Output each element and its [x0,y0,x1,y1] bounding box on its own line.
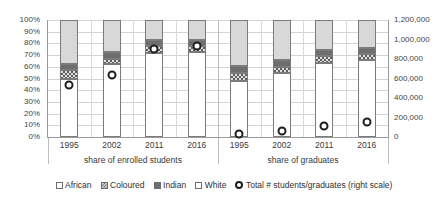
total-count-marker[interactable] [107,71,116,80]
bar-segment-african[interactable] [188,52,206,137]
bar-segment-white[interactable] [230,20,248,66]
right-axis-tick-label: 800,000 [394,55,423,63]
legend-label: Indian [163,180,186,190]
legend-item[interactable]: Coloured [101,180,145,190]
left-axis-tick-label: 30% [24,98,40,106]
bar-segment-coloured[interactable] [230,73,248,81]
bar-segment-white[interactable] [273,20,291,60]
total-count-marker[interactable] [192,42,201,51]
category-separator [261,20,262,137]
total-count-marker[interactable] [150,44,159,53]
legend-label: Total # students/graduates (right scale) [246,180,392,190]
panel-tick [388,138,389,164]
left-y-axis: 0%10%20%30%40%50%60%70%80%90%100% [0,20,44,137]
coloured-swatch [101,182,108,189]
x-axis-tick-label: 2002 [262,140,302,150]
stacked-bar[interactable] [273,20,291,137]
white-swatch [195,182,202,189]
left-axis-tick-label: 10% [24,121,40,129]
legend-item[interactable]: Total # students/graduates (right scale) [235,180,392,190]
right-axis-tick-label: 400,000 [394,94,423,102]
stacked-bar[interactable] [188,20,206,137]
legend-item[interactable]: African [56,180,92,190]
plot-area [48,20,388,137]
x-axis-tick-label: 2016 [177,140,217,150]
total-count-marker[interactable] [362,117,371,126]
category-separator [303,20,304,137]
bar-segment-indian[interactable] [103,52,121,59]
right-axis-tick-label: 0 [394,133,398,141]
category-separator [133,20,134,137]
bar-segment-indian[interactable] [60,64,78,70]
bar-segment-white[interactable] [60,20,78,64]
indian-swatch [154,182,161,189]
left-axis-tick-label: 80% [24,39,40,47]
bar-segment-coloured[interactable] [273,67,291,73]
category-separator [346,20,347,137]
total-count-marker[interactable] [320,121,329,130]
right-axis-tick-label: 600,000 [394,75,423,83]
legend-label: White [205,180,227,190]
panel-tick [48,138,49,164]
left-axis-tick-label: 100% [20,16,40,24]
panel-tick [218,138,219,164]
stacked-bar[interactable] [315,20,333,137]
x-axis-tick-label: 2011 [134,140,174,150]
left-axis-tick-label: 90% [24,28,40,36]
category-separator [91,20,92,137]
bar-segment-indian[interactable] [358,48,376,54]
left-axis-tick-label: 20% [24,110,40,118]
bar-segment-coloured[interactable] [60,70,78,78]
x-axis-tick-label: 1995 [219,140,259,150]
panel-label: share of enrolled students [48,155,218,165]
bar-segment-african[interactable] [145,53,163,137]
right-y-axis: 0200,000400,000600,000800,0001,000,0001,… [392,20,448,137]
circle-marker-swatch [235,181,243,189]
x-axis-tick-label: 2016 [347,140,387,150]
total-count-marker[interactable] [277,126,286,135]
right-axis-tick-label: 200,000 [394,114,423,122]
chart-container: 0%10%20%30%40%50%60%70%80%90%100% 0200,0… [0,0,448,201]
bar-segment-white[interactable] [358,20,376,48]
bar-segment-white[interactable] [103,20,121,52]
x-axis-tick-label: 2011 [304,140,344,150]
x-axis-tick-label: 1995 [49,140,89,150]
chart-legend: AfricanColouredIndianWhiteTotal # studen… [0,176,448,194]
left-axis-tick-label: 40% [24,86,40,94]
panel-divider [218,20,219,137]
stacked-bar[interactable] [230,20,248,137]
bar-segment-coloured[interactable] [358,54,376,60]
bar-segment-indian[interactable] [315,50,333,56]
bar-segment-white[interactable] [145,20,163,40]
legend-item[interactable]: White [195,180,226,190]
legend-item[interactable]: Indian [154,180,187,190]
legend-label: Coloured [110,180,145,190]
panel-label: share of graduates [218,155,388,165]
x-axis-tick-label: 2002 [92,140,132,150]
left-axis-tick-label: 0% [28,133,40,141]
right-axis-tick-label: 1,200,000 [394,16,430,24]
left-axis-tick-label: 60% [24,63,40,71]
stacked-bar[interactable] [145,20,163,137]
african-swatch [56,182,63,189]
left-axis-tick-label: 70% [24,51,40,59]
bar-segment-coloured[interactable] [103,59,121,65]
total-count-marker[interactable] [235,129,244,138]
bar-segment-white[interactable] [315,20,333,50]
total-count-marker[interactable] [65,81,74,90]
legend-label: African [65,180,91,190]
bar-segment-white[interactable] [188,20,206,40]
stacked-bar[interactable] [60,20,78,137]
category-separator [176,20,177,137]
bar-segment-indian[interactable] [230,66,248,73]
bar-segment-coloured[interactable] [315,56,333,63]
bar-segment-indian[interactable] [273,60,291,67]
left-axis-tick-label: 50% [24,75,40,83]
right-axis-line [388,20,389,138]
right-axis-tick-label: 1,000,000 [394,36,430,44]
